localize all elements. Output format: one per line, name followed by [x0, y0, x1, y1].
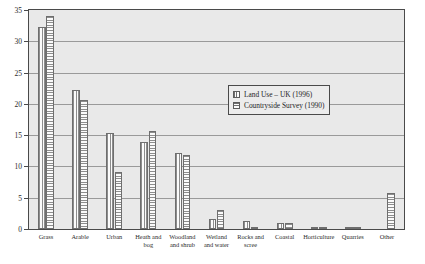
bar [353, 227, 361, 229]
x-tick-label-line: Wetland [206, 233, 227, 240]
x-tick-label-line: Woodland [169, 233, 195, 240]
bar [387, 193, 395, 229]
bar-group [209, 10, 225, 229]
y-tick-mark [24, 10, 28, 11]
y-tick-label: 0 [18, 225, 22, 234]
x-tick-label-line: Other [380, 233, 395, 240]
x-tick-label-line: Heath and [135, 233, 161, 240]
bar [175, 153, 183, 229]
bar-group [140, 10, 156, 229]
y-tick-label: 30 [15, 37, 23, 46]
y-tick-label: 15 [15, 131, 23, 140]
x-tick-label-line: and shrub [170, 241, 195, 248]
legend-entry-label: Countryside Survey (1990) [244, 101, 324, 110]
bar [149, 131, 157, 229]
bar [115, 172, 123, 229]
y-tick-label: 20 [15, 99, 23, 108]
x-tick-label-line: and water [204, 241, 229, 248]
y-tick-mark [24, 104, 28, 105]
bar [285, 223, 293, 229]
x-tick-label-line: scree [244, 241, 257, 248]
bar-group [277, 10, 293, 229]
bar-group [345, 10, 361, 229]
y-axis: 05101520253035 [0, 0, 28, 240]
y-tick-label: 10 [15, 162, 23, 171]
legend-entry: Countryside Survey (1990) [233, 100, 324, 111]
legend-entry-label: Land Use – UK (1996) [244, 90, 312, 99]
bar [311, 227, 319, 230]
bar [319, 227, 327, 229]
y-tick-mark [24, 198, 28, 199]
bars-layer [29, 10, 404, 229]
y-tick-label: 25 [15, 68, 23, 77]
bar [80, 100, 88, 229]
bar [183, 155, 191, 229]
y-tick-mark [24, 135, 28, 136]
y-tick-mark [24, 229, 28, 230]
chart-legend: Land Use – UK (1996) Countryside Survey … [228, 85, 330, 115]
legend-swatch-icon [233, 91, 240, 98]
x-tick-label-line: Quarries [342, 233, 364, 240]
bar-chart: 05101520253035 GrassArableUrbanHeath and… [0, 0, 425, 264]
bar [140, 142, 148, 229]
bar-group [72, 10, 88, 229]
y-tick-mark [24, 41, 28, 42]
legend-entry: Land Use – UK (1996) [233, 89, 324, 100]
x-tick-label-line: Arable [71, 233, 88, 240]
y-tick-mark [24, 73, 28, 74]
bar [209, 219, 217, 229]
x-tick-label-line: Rocks and [237, 233, 264, 240]
bar [72, 90, 80, 229]
bar [345, 227, 353, 229]
y-tick-mark [24, 166, 28, 167]
legend-swatch-icon [233, 102, 240, 109]
bar-group [175, 10, 191, 229]
bar [46, 16, 54, 229]
x-axis: GrassArableUrbanHeath andbogWoodlandand … [29, 233, 404, 264]
bar [277, 223, 285, 229]
bar-group [243, 10, 259, 229]
x-tick-label: Other [367, 233, 407, 241]
y-tick-label: 35 [15, 6, 23, 15]
x-tick-label-line: Coastal [275, 233, 294, 240]
bar-group [379, 10, 395, 229]
bar-group [106, 10, 122, 229]
bar [217, 210, 225, 229]
bar [243, 221, 251, 229]
x-tick-label-line: bog [144, 241, 154, 248]
x-tick-label-line: Horticulture [303, 233, 334, 240]
bar [106, 133, 114, 229]
y-tick-label: 5 [18, 193, 22, 202]
bar [251, 227, 259, 229]
bar [38, 27, 46, 229]
bar-group [38, 10, 54, 229]
x-tick-label-line: Urban [106, 233, 122, 240]
x-tick-label-line: Grass [39, 233, 54, 240]
bar-group [311, 10, 327, 229]
